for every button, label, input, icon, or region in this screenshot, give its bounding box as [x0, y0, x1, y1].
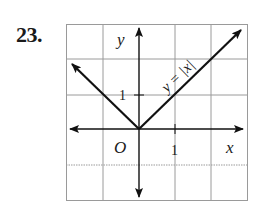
y-axis-label: y	[115, 30, 125, 49]
origin-label: O	[114, 138, 126, 157]
abs-function-plot	[72, 30, 241, 129]
y-tick-label: 1	[119, 88, 126, 103]
equation-label: y = |x|	[157, 56, 198, 96]
x-tick-label: 1	[171, 143, 178, 158]
absolute-value-graph: y x O 1 1 y = |x|	[0, 0, 260, 209]
x-axis-label: x	[225, 138, 234, 157]
